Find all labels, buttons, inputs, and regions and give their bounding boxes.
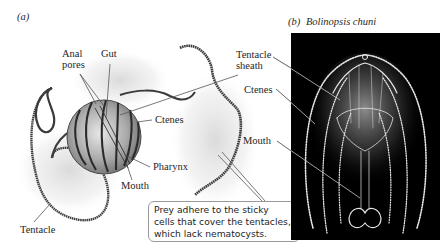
label-tentacle: Tentacle: [20, 224, 55, 235]
panel-b-label: (b) Bolinopsis chuni: [288, 16, 376, 27]
label-anal-pores: Anal pores: [62, 48, 85, 70]
label-ctenes-a: Ctenes: [155, 114, 184, 125]
label-pharynx: Pharynx: [153, 161, 188, 172]
label-tentacle-sheath: Tentacle sheath: [236, 49, 271, 71]
callout-box: Prey adhere to the sticky cells that cov…: [148, 201, 300, 242]
bolinopsis-photo: [291, 33, 440, 240]
comb-jelly-photo-rendering: [291, 33, 440, 240]
callout-line-1: Prey adhere to the sticky: [154, 204, 299, 216]
panel-a-label: (a): [17, 11, 29, 22]
label-mouth-b: Mouth: [243, 135, 271, 146]
species-name: Bolinopsis chuni: [306, 16, 376, 27]
label-mouth-a: Mouth: [121, 180, 149, 191]
label-ctenes-b: Ctenes: [244, 84, 273, 95]
panel-b-letter: (b): [288, 16, 300, 27]
callout-line-3: which lack nematocysts.: [154, 228, 299, 240]
callout-line-2: cells that cover the tentacles,: [154, 216, 299, 228]
label-gut: Gut: [101, 48, 117, 59]
